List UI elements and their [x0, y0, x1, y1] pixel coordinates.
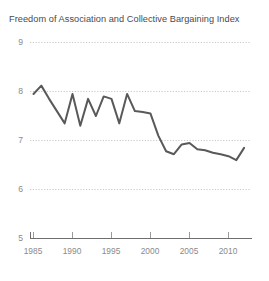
x-axis-label-1995: 1995	[94, 246, 128, 256]
y-axis-label-6: 6	[7, 184, 23, 194]
x-axis-label-2000: 2000	[133, 246, 167, 256]
x-axis-label-2010: 2010	[211, 246, 245, 256]
y-axis-label-7: 7	[7, 135, 23, 145]
y-axis-label-8: 8	[7, 86, 23, 96]
line-chart-plot	[0, 0, 269, 281]
y-axis-label-5: 5	[7, 233, 23, 243]
x-axis-label-1990: 1990	[55, 246, 89, 256]
x-axis-label-2005: 2005	[172, 246, 206, 256]
axes	[30, 232, 252, 239]
y-axis-label-9: 9	[7, 37, 23, 47]
data-series-line	[34, 86, 245, 160]
chart-container: Freedom of Association and Collective Ba…	[0, 0, 269, 281]
x-axis-label-1985: 1985	[16, 246, 50, 256]
x-axis-ticks	[34, 232, 229, 238]
gridlines	[30, 43, 250, 190]
